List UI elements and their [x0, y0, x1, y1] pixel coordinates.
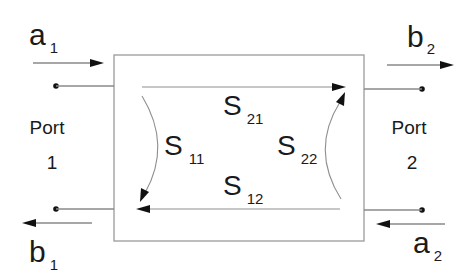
b1-arrow — [22, 219, 92, 227]
port-2-terminals — [364, 86, 425, 213]
port-2-label: Port — [392, 117, 428, 138]
arrowhead-icon — [376, 220, 390, 228]
arrowhead-icon — [440, 61, 454, 69]
s22-reflection-arc — [325, 92, 345, 199]
b1-label: b1 — [29, 235, 58, 273]
two-port-network-diagram: a1 b1 b2 a2 Port 1 Port 2 S21 S11 S22 S1… — [0, 0, 475, 274]
arrowhead-icon — [140, 188, 149, 202]
b2-label: b2 — [407, 20, 435, 57]
s22-label: S22 — [277, 130, 317, 167]
port-1-terminals — [53, 83, 114, 212]
a2-label: a2 — [413, 226, 442, 264]
b2-arrow — [387, 61, 454, 69]
s12-path-arrow — [136, 205, 340, 213]
s11-label: S11 — [164, 130, 204, 167]
port-1-label: Port — [30, 117, 66, 138]
a2-arrow — [376, 220, 445, 228]
arrowhead-icon — [136, 205, 150, 213]
arrowhead-icon — [90, 59, 104, 67]
arrowhead-icon — [336, 92, 345, 106]
s21-path-arrow — [142, 83, 346, 91]
port-2-number: 2 — [407, 152, 418, 173]
network-box — [114, 55, 364, 241]
arrowhead-icon — [332, 83, 346, 91]
a1-label: a1 — [29, 18, 58, 56]
s11-reflection-arc — [140, 96, 158, 202]
port-1-number: 1 — [47, 152, 58, 173]
arrowhead-icon — [22, 219, 36, 227]
s21-label: S21 — [223, 90, 263, 127]
s12-label: S12 — [223, 170, 263, 207]
a1-arrow — [33, 59, 104, 67]
